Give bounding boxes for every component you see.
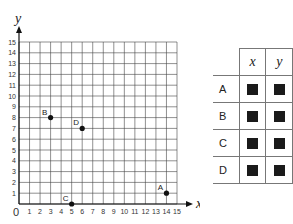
x-tick-label: 13 [152, 208, 160, 215]
x-tick-label: 12 [142, 208, 150, 215]
x-tick-label: 10 [120, 208, 128, 215]
answer-box-x [239, 103, 266, 130]
answer-box-y [266, 103, 293, 130]
coordinate-grid: xy01234567891011121314151234567891011121… [0, 0, 200, 224]
x-axis-label: x [195, 196, 200, 211]
y-tick-label: 2 [12, 179, 16, 186]
x-tick-label: 1 [28, 208, 32, 215]
x-tick-label: 6 [80, 208, 84, 215]
x-tick-label: 2 [38, 208, 42, 215]
header-x: x [239, 49, 266, 76]
y-axis-arrow-icon [16, 26, 22, 33]
answer-box-y [266, 76, 293, 103]
answer-box-x [239, 130, 266, 157]
y-tick-label: 11 [9, 82, 16, 89]
y-tick-label: 7 [12, 125, 16, 132]
coordinates-table: x y A B C D [213, 48, 293, 184]
x-tick-label: 3 [49, 208, 53, 215]
point-c [69, 201, 74, 206]
x-axis-arrow-icon [186, 201, 193, 207]
point-label: D [73, 118, 79, 127]
x-tick-label: 14 [163, 208, 171, 215]
y-axis-label: y [13, 11, 22, 26]
y-tick-label: 15 [8, 39, 16, 46]
x-tick-label: 8 [101, 208, 105, 215]
header-y: y [266, 49, 293, 76]
answer-box-y [266, 157, 293, 184]
answer-box-x [239, 157, 266, 184]
y-tick-label: 8 [12, 114, 16, 121]
x-tick-label: 0 [13, 206, 19, 218]
x-tick-label: 15 [173, 208, 181, 215]
y-tick-label: 10 [8, 93, 16, 100]
y-tick-label: 9 [12, 103, 16, 110]
answer-box-x [239, 76, 266, 103]
row-label: B [213, 103, 239, 130]
row-label: C [213, 130, 239, 157]
table-row: A [213, 76, 293, 103]
row-label: D [213, 157, 239, 184]
point-label: B [42, 108, 47, 117]
x-tick-label: 11 [131, 208, 138, 215]
x-tick-label: 7 [91, 208, 95, 215]
x-tick-label: 5 [70, 208, 74, 215]
x-tick-label: 4 [59, 208, 63, 215]
table-row: D [213, 157, 293, 184]
y-tick-label: 12 [8, 71, 16, 78]
point-label: A [158, 183, 164, 192]
y-tick-label: 14 [8, 49, 16, 56]
y-tick-label: 1 [12, 190, 16, 197]
y-tick-label: 6 [12, 136, 16, 143]
y-tick-label: 4 [12, 157, 16, 164]
answer-box-y [266, 130, 293, 157]
x-tick-label: 9 [112, 208, 116, 215]
y-tick-label: 3 [12, 168, 16, 175]
point-d [80, 126, 85, 131]
point-b [48, 115, 53, 120]
point-a [164, 191, 169, 196]
table-header-row: x y [213, 49, 293, 76]
table-row: C [213, 130, 293, 157]
point-label: C [63, 194, 69, 203]
y-tick-label: 13 [8, 60, 16, 67]
y-tick-label: 5 [12, 147, 16, 154]
table-row: B [213, 103, 293, 130]
row-label: A [213, 76, 239, 103]
